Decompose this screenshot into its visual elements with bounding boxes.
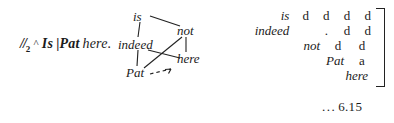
matrix-cell: d (316, 8, 337, 24)
matrix-cell: d (357, 23, 378, 39)
table-row: indeed . d d (248, 23, 378, 38)
matrix-cell: d (295, 8, 316, 24)
table-row: Pat a (248, 53, 378, 68)
matrix-row-label: not (248, 38, 326, 54)
table-row: not d d (248, 38, 378, 53)
edge-indeed-pat (137, 50, 138, 66)
diagram-node-here: here (177, 52, 200, 65)
table-row: is d d d d (248, 8, 378, 23)
matrix-cell: d (357, 8, 378, 24)
sentence-slashes: // (20, 36, 26, 51)
matrix-row-label: is (248, 8, 295, 24)
edge-is-not (150, 16, 180, 26)
edge-is-indeed (138, 22, 140, 37)
arrowhead-icon (165, 69, 171, 74)
dependency-diagram: is not indeed here Pat (118, 0, 214, 95)
matrix-right-bracket (376, 8, 385, 87)
diagram-node-indeed: indeed (118, 38, 153, 51)
reference-value: 6.15 (338, 99, 362, 114)
caret-icon: ^ (32, 37, 41, 49)
diagram-node-is: is (133, 10, 142, 23)
matrix-cell: a (350, 53, 374, 69)
matrix-row-label: indeed (248, 23, 295, 39)
matrix-cell: d (350, 38, 374, 54)
reference-leader-dots: ... (322, 99, 338, 114)
matrix-cell: . (316, 23, 337, 39)
diagram-node-not: not (177, 24, 194, 37)
figure-reference-number: ...6.15 (322, 99, 362, 115)
diagram-node-pat: Pat (126, 66, 144, 79)
sentence-word-is: Is (42, 36, 53, 51)
figure-page: //2^Is|Pathere. is not indeed here Pat (0, 0, 394, 123)
example-sentence: //2^Is|Pathere. (20, 36, 111, 54)
sentence-word-here: here. (80, 36, 112, 51)
sentence-word-pat: Pat (59, 36, 79, 51)
matrix-cell: d (337, 8, 358, 24)
matrix-row-label: here (248, 68, 374, 84)
feature-matrix: is d d d d indeed . d d not d d Pat a he… (248, 8, 378, 83)
matrix-cell: d (326, 38, 350, 54)
matrix-cell: d (337, 23, 358, 39)
table-row: here (248, 68, 378, 83)
matrix-row-label: Pat (248, 53, 350, 69)
